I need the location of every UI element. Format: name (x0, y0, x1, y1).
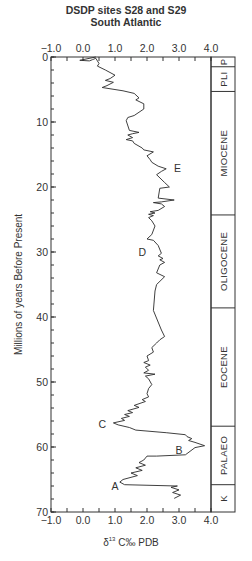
x-tick-label-top: 3.0 (172, 42, 187, 54)
epoch-label-pli: PLI (218, 72, 229, 87)
x-tick-label-bottom: 3.0 (172, 514, 187, 526)
y-tick-label: 40 (36, 311, 48, 323)
y-axis-title: Millions of years Before Present (13, 214, 24, 355)
y-tick-label: 50 (36, 376, 48, 388)
x-tick-label-top: 4.0 (204, 42, 219, 54)
annotation-c: C (98, 418, 106, 430)
epoch-label-k: K (218, 495, 229, 502)
y-tick-label: 10 (36, 116, 48, 128)
x-tick-label-bottom: 1.0 (108, 514, 123, 526)
epoch-label-eocene: EOCENE (218, 346, 229, 388)
annotation-e: E (174, 162, 181, 174)
x-axis-title: δ13 C‰ PDB (103, 536, 159, 548)
chart: −1.0−1.00.00.01.01.02.02.03.03.04.04.001… (0, 0, 252, 561)
x-tick-label-bottom: 0.0 (76, 514, 91, 526)
x-tick-label-top: 0.0 (76, 42, 91, 54)
y-tick-label: 30 (36, 246, 48, 258)
epoch-label-palaeo: PALAEO (218, 436, 229, 475)
plot-area (51, 57, 211, 512)
x-tick-label-top: 1.0 (108, 42, 123, 54)
epoch-label-oligocene: OLIGOCENE (218, 232, 229, 291)
y-tick-label: 60 (36, 441, 48, 453)
annotation-d: D (138, 246, 146, 258)
epoch-label-miocene: MIOCENE (218, 130, 229, 176)
epoch-label-p: P (218, 59, 229, 66)
x-tick-label-top: 2.0 (140, 42, 155, 54)
x-tick-label-bottom: 4.0 (204, 514, 219, 526)
x-tick-label-bottom: 2.0 (140, 514, 155, 526)
y-tick-label: 20 (36, 181, 48, 193)
annotation-b: B (175, 444, 182, 456)
annotation-a: A (111, 480, 118, 492)
y-tick-label: 70 (36, 506, 48, 518)
y-tick-label: 0 (42, 51, 48, 63)
data-line (80, 57, 205, 498)
